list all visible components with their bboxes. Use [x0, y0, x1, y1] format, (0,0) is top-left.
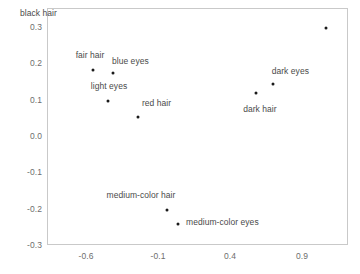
data-point-label: dark eyes	[272, 66, 309, 76]
data-point	[254, 92, 257, 95]
data-point	[106, 100, 109, 103]
data-point-label: blue eyes	[112, 56, 149, 66]
x-tick-label: 0.9	[296, 251, 308, 261]
data-point-label: dark hair	[243, 104, 277, 114]
data-point	[272, 83, 275, 86]
data-point-label: light eyes	[91, 81, 127, 91]
y-tick-label: -0.2	[2, 204, 42, 214]
data-point	[91, 68, 94, 71]
data-point	[165, 208, 168, 211]
data-point-label: fair hair	[76, 50, 105, 60]
scatter-plot: 0.30.20.10.0-0.1-0.2-0.3 -0.6-0.10.40.9 …	[0, 0, 360, 274]
data-point-label: medium-color eyes	[186, 217, 259, 227]
x-tick-label: -0.1	[150, 251, 165, 261]
x-tick-label: 0.4	[224, 251, 236, 261]
x-tick-label: -0.6	[78, 251, 93, 261]
y-tick-label: -0.1	[2, 167, 42, 177]
y-tick-label: 0.2	[2, 58, 42, 68]
data-point	[325, 27, 328, 30]
y-tick-label: 0.0	[2, 131, 42, 141]
y-tick-label: -0.3	[2, 240, 42, 250]
data-point-label: red hair	[142, 98, 171, 108]
data-point	[176, 223, 179, 226]
y-axis: 0.30.20.10.0-0.1-0.2-0.3	[0, 0, 42, 274]
data-point-label: black hair	[20, 8, 57, 18]
y-tick-label: 0.1	[2, 95, 42, 105]
y-tick-label: 0.3	[2, 22, 42, 32]
data-point	[112, 72, 115, 75]
plot-area	[47, 8, 348, 245]
data-point	[136, 116, 139, 119]
data-point-label: medium-color hair	[107, 190, 176, 200]
